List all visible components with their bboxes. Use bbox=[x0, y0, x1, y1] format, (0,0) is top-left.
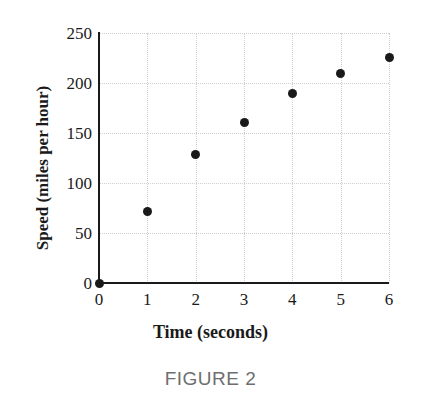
x-tick-label: 3 bbox=[232, 291, 256, 308]
y-tick-label: 0 bbox=[84, 275, 93, 292]
data-point bbox=[191, 150, 200, 159]
x-tick-label: 4 bbox=[280, 291, 304, 308]
figure-container: 050100150200250 0123456 Speed (miles per… bbox=[0, 0, 421, 414]
y-tick-label: 150 bbox=[67, 125, 93, 142]
data-point bbox=[385, 53, 394, 62]
gridline-horizontal bbox=[99, 133, 389, 134]
gridline-vertical bbox=[292, 33, 293, 283]
data-point bbox=[143, 207, 152, 216]
gridline-horizontal bbox=[99, 33, 389, 34]
gridline-vertical bbox=[147, 33, 148, 283]
y-tick-label: 100 bbox=[67, 175, 93, 192]
x-axis-tick-labels: 0123456 bbox=[0, 291, 421, 315]
x-axis-title: Time (seconds) bbox=[0, 322, 421, 343]
gridline-horizontal bbox=[99, 83, 389, 84]
figure-caption: FIGURE 2 bbox=[0, 368, 421, 390]
data-point bbox=[288, 89, 297, 98]
x-tick-label: 6 bbox=[377, 291, 401, 308]
x-axis-line bbox=[98, 282, 389, 284]
plot-area bbox=[99, 33, 389, 283]
y-tick-label: 200 bbox=[67, 75, 93, 92]
gridline-horizontal bbox=[99, 183, 389, 184]
data-point bbox=[240, 118, 249, 127]
gridline-horizontal bbox=[99, 233, 389, 234]
y-tick-label: 250 bbox=[67, 25, 93, 42]
x-tick-label: 0 bbox=[87, 291, 111, 308]
x-tick-label: 2 bbox=[184, 291, 208, 308]
gridline-vertical bbox=[244, 33, 245, 283]
x-tick-label: 5 bbox=[329, 291, 353, 308]
y-axis-line bbox=[98, 32, 100, 284]
data-point bbox=[336, 69, 345, 78]
x-tick-label: 1 bbox=[135, 291, 159, 308]
gridline-vertical bbox=[389, 33, 390, 283]
y-axis-title: Speed (miles per hour) bbox=[33, 43, 53, 293]
y-tick-label: 50 bbox=[75, 225, 92, 242]
